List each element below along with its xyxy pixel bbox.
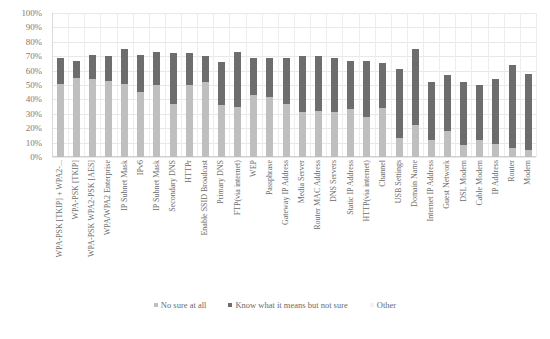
stacked-bar[interactable] — [525, 74, 532, 158]
bar-slot — [165, 13, 181, 157]
stacked-bar[interactable] — [331, 58, 338, 157]
bar-segment-no-sure-at-all — [57, 84, 64, 157]
x-label-slot: USB Settings — [391, 160, 407, 288]
bar-segment-no-sure-at-all — [509, 148, 516, 157]
x-axis-labels: WPA-PSK [TKIP] + WPA2-...WPA-PSK [TKIP]W… — [52, 160, 536, 288]
y-axis-tick-label: 100% — [21, 9, 42, 18]
bar-slot — [133, 13, 149, 157]
bar-segment-no-sure-at-all — [89, 79, 96, 157]
stacked-bar[interactable] — [379, 63, 386, 157]
stacked-bar[interactable] — [444, 75, 451, 157]
stacked-bar[interactable] — [170, 53, 177, 157]
x-axis-tick-label: Cable Modem — [476, 160, 484, 206]
stacked-bar[interactable] — [315, 56, 322, 157]
legend-item[interactable]: Other — [370, 300, 396, 310]
bar-segment-know-what-it-means — [460, 82, 467, 145]
bar-segment-no-sure-at-all — [299, 112, 306, 157]
stacked-bar[interactable] — [363, 61, 370, 157]
legend-label: Know what it means but not sure — [235, 300, 347, 310]
bar-segment-know-what-it-means — [89, 55, 96, 79]
stacked-bar[interactable] — [121, 49, 128, 157]
x-axis-tick-label: HTTP(via internet) — [363, 160, 371, 222]
bar-slot — [359, 13, 375, 157]
x-label-slot: IP Subnet Mask — [117, 160, 133, 288]
stacked-bar[interactable] — [89, 55, 96, 157]
bar-slot — [488, 13, 504, 157]
bar-segment-no-sure-at-all — [379, 108, 386, 157]
y-axis-tick-label: 40% — [26, 95, 42, 104]
x-axis-tick-label: Secondary DNS — [169, 160, 177, 212]
stacked-bar[interactable] — [283, 58, 290, 157]
x-label-slot: Gateway IP Address — [278, 160, 294, 288]
y-axis-tick-label: 90% — [26, 23, 42, 32]
stacked-bar[interactable] — [186, 53, 193, 157]
legend-item[interactable]: No sure at all — [154, 300, 207, 310]
bar-segment-no-sure-at-all — [525, 150, 532, 157]
x-axis-tick-label: DNS Servers — [330, 160, 338, 202]
x-label-slot: Router MAC Address — [310, 160, 326, 288]
stacked-bar[interactable] — [137, 55, 144, 157]
x-label-slot: IPv6 — [133, 160, 149, 288]
stacked-bar[interactable] — [509, 65, 516, 157]
bar-slot — [326, 13, 342, 157]
stacked-bar[interactable] — [492, 79, 499, 157]
stacked-bar[interactable] — [347, 61, 354, 157]
stacked-bar[interactable] — [218, 62, 225, 157]
stacked-bar[interactable] — [105, 56, 112, 157]
bar-segment-no-sure-at-all — [363, 117, 370, 157]
stacked-bar[interactable] — [460, 82, 467, 157]
bar-slot — [84, 13, 100, 157]
x-axis-tick-label: IP Subnet Mask — [121, 160, 129, 211]
bar-segment-know-what-it-means — [509, 65, 516, 149]
stacked-bar[interactable] — [57, 58, 64, 157]
bar-slot — [294, 13, 310, 157]
bar-segment-know-what-it-means — [105, 56, 112, 80]
bar-segment-know-what-it-means — [396, 69, 403, 138]
bar-slot — [246, 13, 262, 157]
x-axis-tick-label: Gateway IP Address — [282, 160, 290, 225]
y-axis-tick-label: 0% — [30, 153, 42, 162]
bar-slot — [117, 13, 133, 157]
bar-slot — [343, 13, 359, 157]
bar-segment-know-what-it-means — [283, 58, 290, 104]
stacked-bar[interactable] — [396, 69, 403, 157]
stacked-bar[interactable] — [428, 82, 435, 157]
y-axis-tick-label: 60% — [26, 66, 42, 75]
x-label-slot: HTTPr — [181, 160, 197, 288]
x-label-slot: WPA-PSK WPA2-PSK [AES] — [84, 160, 100, 288]
stacked-bar[interactable] — [412, 49, 419, 157]
bar-segment-no-sure-at-all — [234, 107, 241, 157]
stacked-bar[interactable] — [299, 56, 306, 157]
legend-item[interactable]: Know what it means but not sure — [228, 300, 347, 310]
x-axis-tick-label: WPA-PSK [TKIP] + WPA2-... — [56, 160, 64, 258]
bar-slot — [68, 13, 84, 157]
stacked-bar[interactable] — [73, 61, 80, 157]
bar-slot — [149, 13, 165, 157]
bar-segment-no-sure-at-all — [250, 95, 257, 157]
x-axis-tick-label: WPA-PSK WPA2-PSK [AES] — [88, 160, 96, 257]
bar-slot — [407, 13, 423, 157]
stacked-bar[interactable] — [153, 52, 160, 157]
stacked-bar[interactable] — [250, 58, 257, 157]
bar-slot — [262, 13, 278, 157]
bar-slot — [197, 13, 213, 157]
stacked-bar[interactable] — [476, 85, 483, 157]
stacked-bar[interactable] — [202, 56, 209, 157]
bar-segment-no-sure-at-all — [476, 140, 483, 157]
x-axis-tick-label: WEP — [250, 160, 258, 177]
x-label-slot: Channel — [375, 160, 391, 288]
bar-slot — [439, 13, 455, 157]
bar-segment-know-what-it-means — [412, 49, 419, 125]
x-axis-tick-label: DSL Modem — [460, 160, 468, 202]
legend-label: No sure at all — [161, 300, 207, 310]
chart-legend: No sure at allKnow what it means but not… — [0, 300, 550, 310]
bar-segment-know-what-it-means — [266, 58, 273, 97]
x-axis-tick-label: Channel — [379, 160, 387, 187]
bar-slot — [230, 13, 246, 157]
stacked-bar[interactable] — [266, 58, 273, 157]
x-axis-tick-label: IPv6 — [137, 160, 145, 175]
stacked-bar[interactable] — [234, 52, 241, 157]
y-axis-tick-label: 10% — [26, 138, 42, 147]
x-label-slot: FTP(via internet) — [230, 160, 246, 288]
x-axis-tick-label: IP Address — [492, 160, 500, 195]
